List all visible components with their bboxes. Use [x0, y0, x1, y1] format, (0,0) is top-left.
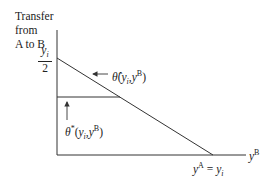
theta-hat-label: θ̂(yi,yB)	[112, 67, 146, 88]
tick-denominator: 2	[38, 62, 52, 74]
y-axis-tick-label: yi 2	[38, 44, 52, 74]
y-axis-label-line: Transfer	[15, 10, 54, 23]
x-axis-label: yB	[249, 146, 259, 163]
tick-numerator: yi	[38, 44, 52, 62]
theta-star-label: θ*(yi,yB)	[65, 122, 103, 143]
x-axis-tick-label: yA = yi	[193, 159, 223, 180]
y-axis-label-line: from	[15, 24, 54, 37]
